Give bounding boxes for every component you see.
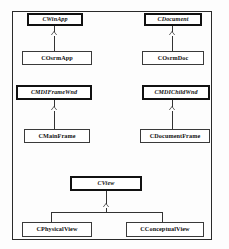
class-box-cosrmdoc[interactable]: COsrmDoc xyxy=(142,51,204,65)
generalization-line-cosrmdoc-cdocument xyxy=(172,26,173,51)
class-box-cdocumentframe[interactable]: CDocumentFrame xyxy=(140,129,210,143)
generalization-line-cmainframe-cmdiframewnd xyxy=(54,100,55,129)
class-label-cdocument: CDocument xyxy=(157,16,188,22)
generalization-arrow-fill-cview xyxy=(103,204,109,208)
class-label-cconceptualview: CConceptualView xyxy=(140,226,189,233)
diagram-outer-frame xyxy=(12,11,212,240)
class-label-cmainframe: CMainFrame xyxy=(38,133,75,140)
class-box-cmainframe[interactable]: CMainFrame xyxy=(24,129,90,143)
class-label-cdocumentframe: CDocumentFrame xyxy=(150,133,201,140)
class-label-cosrmdoc: COsrmDoc xyxy=(158,55,189,62)
generalization-arrow-fill-cdocumentframe-cmdichildwnd xyxy=(169,107,175,111)
generalization-line-cosrmapp-cwinapp xyxy=(54,26,55,51)
class-label-cosrmapp: COsrmApp xyxy=(41,55,73,62)
generalization-stem-cview xyxy=(106,191,107,212)
class-box-cphysicalview[interactable]: CPhysicalView xyxy=(22,222,92,237)
class-label-cview: CView xyxy=(98,180,115,186)
class-label-cwinapp: CWinApp xyxy=(42,16,67,22)
generalization-line-cdocumentframe-cmdichildwnd xyxy=(172,100,173,129)
generalization-arrow-fill-cosrmapp-cwinapp xyxy=(51,32,57,36)
class-label-cmdiframewnd: CMDIFrameWnd xyxy=(31,89,77,95)
class-box-cconceptualview[interactable]: CConceptualView xyxy=(126,222,204,237)
generalization-arrow-fill-cosrmdoc-cdocument xyxy=(169,32,175,36)
class-box-cdocument[interactable]: CDocument xyxy=(144,13,202,26)
generalization-leg-cconceptualview xyxy=(162,212,163,222)
class-label-cphysicalview: CPhysicalView xyxy=(37,226,78,233)
class-box-cosrmapp[interactable]: COsrmApp xyxy=(22,51,92,65)
generalization-arrow-fill-cmainframe-cmdiframewnd xyxy=(51,107,57,111)
generalization-leg-cphysicalview xyxy=(51,212,52,222)
class-box-cwinapp[interactable]: CWinApp xyxy=(27,13,83,26)
diagram-canvas: CWinApp COsrmApp CDocument COsrmDoc CMDI… xyxy=(0,0,229,249)
generalization-fork-bar-cview xyxy=(51,212,163,213)
class-box-cmdiframewnd[interactable]: CMDIFrameWnd xyxy=(16,85,92,100)
class-label-cmdichildwnd: CMDIChildWnd xyxy=(154,89,197,95)
class-box-cview[interactable]: CView xyxy=(70,176,142,191)
class-box-cmdichildwnd[interactable]: CMDIChildWnd xyxy=(142,85,210,100)
